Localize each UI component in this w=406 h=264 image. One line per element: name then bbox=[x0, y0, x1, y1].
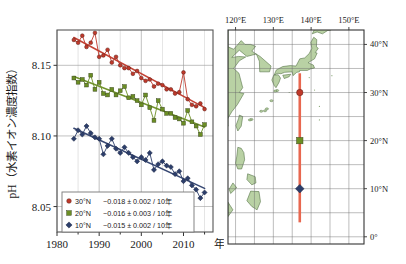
land-ryukyu-islet bbox=[260, 110, 263, 112]
legend-lat-10°N: 10°N bbox=[75, 221, 91, 230]
data-point-20°N bbox=[148, 106, 152, 110]
land-ryukyu-islet bbox=[263, 110, 266, 112]
data-point-20°N bbox=[198, 133, 202, 137]
land-ryukyu-islet bbox=[248, 119, 251, 121]
data-point-20°N bbox=[161, 107, 165, 111]
data-point-30°N bbox=[118, 63, 122, 67]
data-point-30°N bbox=[148, 78, 152, 82]
data-point-20°N bbox=[127, 96, 131, 100]
data-point-30°N bbox=[106, 48, 110, 52]
data-point-20°N bbox=[203, 123, 207, 127]
land-islet bbox=[331, 75, 332, 76]
land-ryukyu-islet bbox=[274, 90, 277, 92]
data-point-30°N bbox=[123, 66, 127, 70]
station-location-map: 120°E130°E140°E150°E40°N30°N20°N10°N0° bbox=[224, 0, 406, 264]
data-point-30°N bbox=[85, 45, 89, 49]
data-point-30°N bbox=[186, 97, 190, 101]
data-point-20°N bbox=[165, 111, 169, 115]
data-point-20°N bbox=[156, 99, 160, 103]
data-point-20°N bbox=[118, 89, 122, 93]
data-point-20°N bbox=[152, 119, 156, 123]
legend-lat-20°N: 20°N bbox=[75, 209, 91, 218]
data-point-30°N bbox=[89, 41, 93, 45]
data-point-20°N bbox=[101, 92, 105, 96]
data-point-20°N bbox=[190, 120, 194, 124]
chart-svg: 8.058.108.151980199020002010年pH（水素イオン濃度指… bbox=[0, 0, 224, 264]
map-ocean bbox=[228, 30, 364, 244]
data-point-20°N bbox=[106, 93, 110, 97]
data-point-20°N bbox=[182, 121, 186, 125]
y-tick-label: 8.10 bbox=[32, 130, 52, 142]
legend-marker-20°N bbox=[67, 211, 72, 216]
data-point-30°N bbox=[152, 85, 156, 89]
data-point-30°N bbox=[80, 34, 84, 38]
data-point-30°N bbox=[182, 70, 186, 74]
data-point-20°N bbox=[186, 109, 190, 113]
data-point-20°N bbox=[144, 93, 148, 97]
data-point-30°N bbox=[139, 76, 143, 80]
data-point-20°N bbox=[169, 111, 173, 115]
map-lat-label: 40°N bbox=[370, 39, 388, 49]
legend-lat-30°N: 30°N bbox=[75, 197, 91, 206]
data-point-20°N bbox=[114, 93, 118, 97]
x-tick-label: 1990 bbox=[88, 238, 111, 250]
data-point-30°N bbox=[114, 55, 118, 59]
map-lat-label: 0° bbox=[370, 232, 378, 242]
data-point-20°N bbox=[72, 76, 76, 80]
data-point-30°N bbox=[72, 38, 76, 42]
map-lon-label: 150°E bbox=[338, 15, 359, 25]
land-islet bbox=[319, 119, 320, 120]
station-30n bbox=[297, 89, 303, 95]
legend-trend-20°N: −0.016 ± 0.003 / 10年 bbox=[103, 209, 172, 218]
data-point-30°N bbox=[110, 61, 114, 65]
y-axis-label: pH（水素イオン濃度指数） bbox=[5, 63, 19, 198]
data-point-20°N bbox=[89, 73, 93, 77]
data-point-30°N bbox=[156, 82, 160, 86]
data-point-20°N bbox=[123, 85, 127, 89]
x-axis-label: 年 bbox=[214, 237, 225, 250]
data-point-30°N bbox=[135, 69, 139, 73]
map-lon-label: 120°E bbox=[225, 15, 246, 25]
land-islet bbox=[319, 106, 320, 107]
data-point-30°N bbox=[93, 31, 97, 35]
data-point-30°N bbox=[101, 54, 105, 58]
map-lat-label: 20°N bbox=[370, 136, 388, 146]
data-point-30°N bbox=[127, 66, 131, 70]
y-tick-label: 8.05 bbox=[32, 201, 52, 213]
legend-trend-10°N: −0.015 ± 0.002 / 10年 bbox=[103, 221, 172, 230]
data-point-30°N bbox=[76, 41, 80, 45]
data-point-30°N bbox=[144, 79, 148, 83]
land-islet bbox=[314, 90, 315, 91]
data-point-20°N bbox=[80, 78, 84, 82]
data-point-30°N bbox=[173, 92, 177, 96]
data-point-20°N bbox=[194, 124, 198, 128]
ph-timeseries-chart: 8.058.108.151980199020002010年pH（水素イオン濃度指… bbox=[0, 0, 224, 264]
data-point-20°N bbox=[131, 94, 135, 98]
data-point-20°N bbox=[93, 87, 97, 91]
map-lon-label: 140°E bbox=[300, 15, 321, 25]
data-point-20°N bbox=[135, 99, 139, 103]
land-ryukyu-islet bbox=[265, 108, 268, 110]
data-point-20°N bbox=[97, 80, 101, 84]
data-point-30°N bbox=[97, 55, 101, 59]
map-lat-label: 10°N bbox=[370, 184, 388, 194]
station-20n bbox=[297, 137, 303, 143]
data-point-30°N bbox=[161, 83, 165, 87]
x-tick-label: 1980 bbox=[46, 238, 69, 250]
legend-marker-30°N bbox=[67, 199, 72, 204]
data-point-30°N bbox=[194, 104, 198, 108]
data-point-30°N bbox=[131, 72, 135, 76]
y-tick-label: 8.15 bbox=[32, 59, 52, 71]
data-point-20°N bbox=[110, 87, 114, 91]
data-point-30°N bbox=[177, 90, 181, 94]
data-point-20°N bbox=[173, 116, 177, 120]
land-islet bbox=[309, 77, 310, 78]
data-point-30°N bbox=[165, 87, 169, 91]
x-tick-label: 2000 bbox=[130, 238, 153, 250]
data-point-30°N bbox=[190, 103, 194, 107]
data-point-20°N bbox=[76, 80, 80, 84]
data-point-20°N bbox=[177, 117, 181, 121]
x-tick-label: 2010 bbox=[172, 238, 195, 250]
data-point-20°N bbox=[139, 103, 143, 107]
data-point-30°N bbox=[169, 87, 173, 91]
